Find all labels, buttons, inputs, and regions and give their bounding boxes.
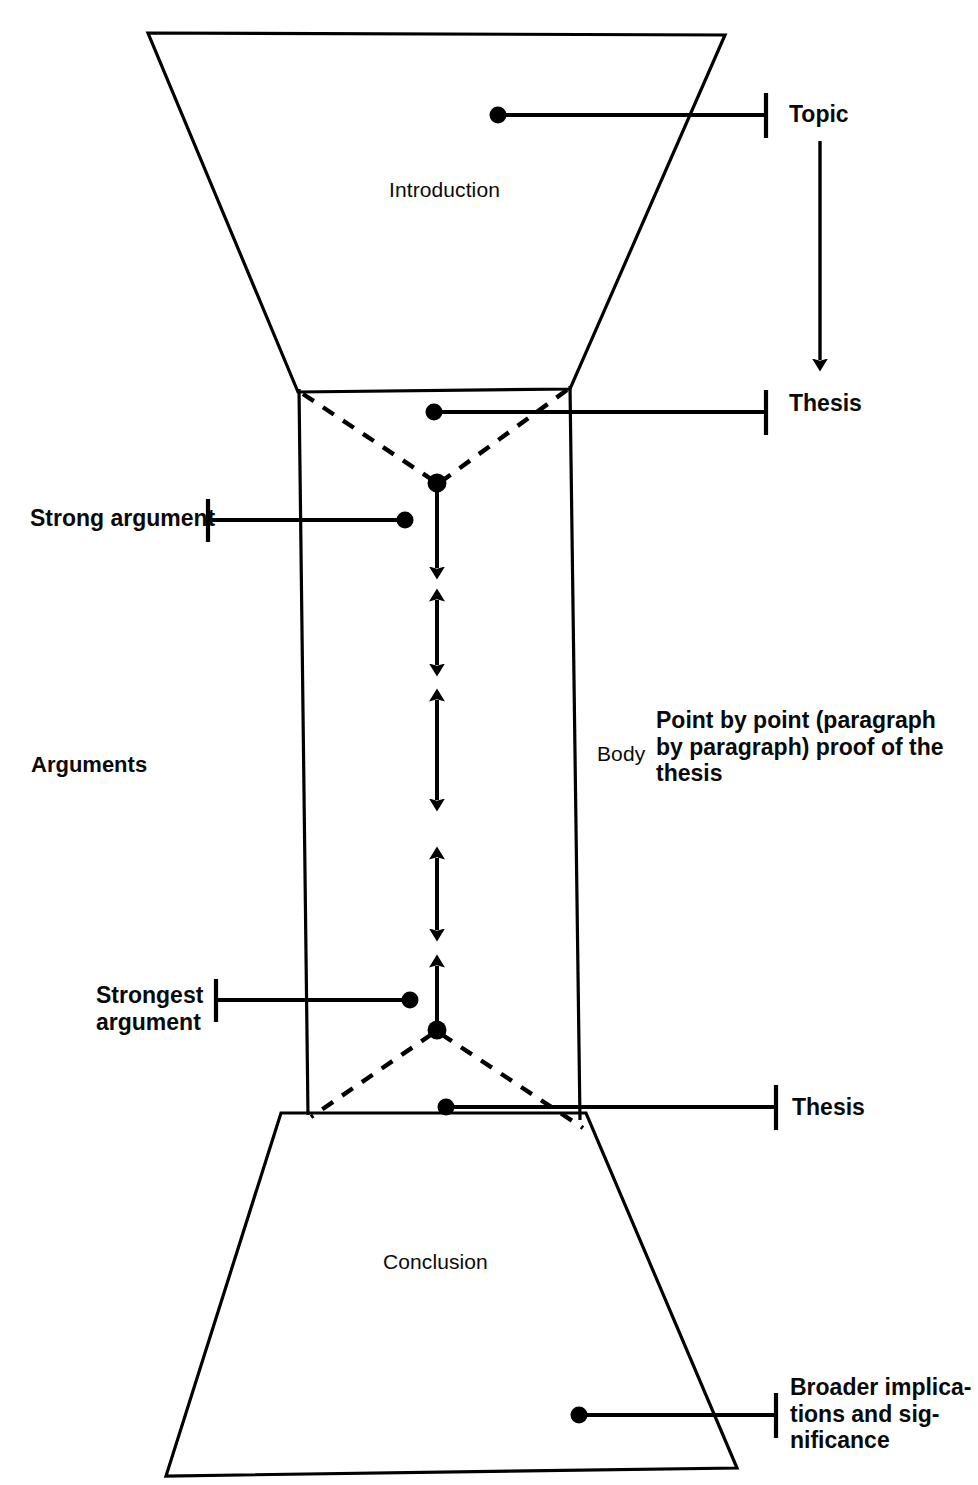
conclusion-label: Conclusion xyxy=(383,1250,488,1274)
topic-leader xyxy=(490,93,767,138)
strongest-argument-label: Strongest argument xyxy=(96,982,203,1035)
body-shape xyxy=(299,386,580,1120)
strong-argument-leader xyxy=(208,499,414,542)
strongest-argument-leader xyxy=(216,979,419,1022)
thesis-top-leader xyxy=(426,390,767,435)
broader-implications-leader xyxy=(571,1393,777,1438)
body-description-label: Point by point (paragraph by paragraph) … xyxy=(656,707,944,787)
conclusion-shape xyxy=(166,1113,737,1476)
introduction-label: Introduction xyxy=(389,178,500,202)
thesis-top-label: Thesis xyxy=(789,390,862,417)
introduction-shape xyxy=(148,33,725,392)
diagram-canvas: Introduction Conclusion Arguments Body P… xyxy=(0,0,978,1485)
strong-argument-label: Strong argument xyxy=(30,505,215,532)
thesis-bottom-leader xyxy=(438,1085,777,1130)
broader-implications-label: Broader implica- tions and sig- nificanc… xyxy=(790,1374,972,1454)
arguments-label: Arguments xyxy=(31,752,147,778)
body-label: Body xyxy=(597,742,645,766)
thesis-bottom-label: Thesis xyxy=(792,1094,865,1121)
topic-label: Topic xyxy=(789,101,849,128)
